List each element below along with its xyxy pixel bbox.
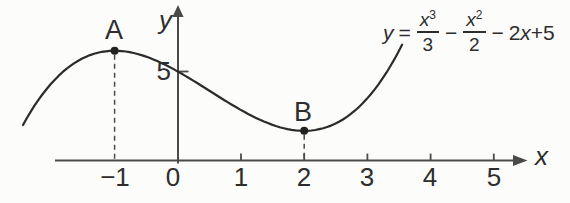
linear-coefficient: 2: [509, 22, 521, 43]
constant-term: +5: [531, 22, 555, 43]
x-axis-label: x: [535, 143, 548, 169]
function-curve: [23, 45, 402, 131]
point-a-label: A: [94, 17, 134, 44]
fraction-1-exponent: 3: [429, 8, 436, 22]
equation-fraction-1: x3 3: [416, 10, 440, 54]
x-tick-label-neg1: −1: [95, 164, 135, 190]
equation-fraction-2: x2 2: [462, 10, 486, 54]
x-tick-label-1: 1: [221, 164, 261, 190]
x-tick-label-4: 4: [410, 164, 450, 190]
x-tick-label-2: 2: [284, 164, 324, 190]
fraction-1-numerator: x3: [416, 10, 440, 31]
equation-lhs: y: [383, 22, 394, 43]
fraction-1-denominator: 3: [417, 31, 440, 54]
curve-equation: y = x3 3 − x2 2 − 2 x +5: [383, 10, 555, 54]
equation-minus-1: −: [445, 22, 457, 43]
equation-equals: =: [399, 22, 411, 43]
fraction-2-base: x: [466, 9, 476, 30]
x-tick-label-3: 3: [347, 164, 387, 190]
x-tick-label-5: 5: [474, 164, 514, 190]
fraction-2-exponent: 2: [476, 8, 483, 22]
equation-linear-term: 2 x +5: [509, 22, 555, 43]
y-axis-label: y: [146, 7, 172, 33]
x-axis-ticks: [241, 154, 494, 161]
fraction-2-denominator: 2: [463, 31, 486, 54]
linear-variable: x: [520, 22, 531, 43]
point-b-label: B: [283, 99, 323, 126]
y-axis-arrowhead-icon: [172, 5, 183, 17]
function-graph-figure: y x 5 −1 0 1 2 3 4 5 A B y = x3 3 − x2 2…: [0, 0, 570, 203]
point-a-dot: [111, 47, 119, 55]
y-tick-label-5: 5: [141, 58, 171, 84]
x-tick-label-0: 0: [153, 164, 193, 190]
point-b-dot: [300, 127, 308, 135]
equation-minus-2: −: [491, 22, 503, 43]
fraction-1-base: x: [420, 9, 430, 30]
fraction-2-numerator: x2: [462, 10, 486, 31]
x-axis-arrowhead-icon: [513, 155, 528, 166]
